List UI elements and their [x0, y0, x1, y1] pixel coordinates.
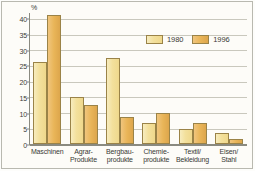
y-tick-label-40: 40	[19, 16, 27, 23]
y-tick-label-20: 20	[19, 79, 27, 86]
legend-swatch-1980	[146, 35, 163, 44]
bar-group	[142, 13, 170, 144]
bar-1980	[179, 129, 193, 144]
bar-1996	[229, 139, 243, 144]
y-tick-mark-10	[27, 113, 30, 114]
y-tick-mark-5	[27, 129, 30, 130]
chart-legend: 1980 1996	[146, 35, 230, 44]
bar-1996	[156, 113, 170, 144]
chart-screenshot: % 0510152025303540 1980 1996 MaschinenAg…	[0, 0, 255, 171]
bar-1980	[33, 62, 47, 144]
y-tick-mark-0	[27, 145, 30, 146]
x-axis-label: Eisen/ Stahl	[207, 148, 251, 164]
bar-1980	[142, 123, 156, 144]
bar-1996	[84, 105, 98, 144]
y-tick-mark-40	[27, 19, 30, 20]
y-tick-mark-20	[27, 82, 30, 83]
y-tick-label-35: 35	[19, 32, 27, 39]
y-tick-mark-15	[27, 97, 30, 98]
y-tick-mark-25	[27, 66, 30, 67]
y-tick-label-30: 30	[19, 47, 27, 54]
plot-area: 0510152025303540	[29, 13, 247, 145]
y-tick-mark-30	[27, 50, 30, 51]
bar-1980	[70, 97, 84, 144]
y-tick-mark-35	[27, 35, 30, 36]
y-tick-label-25: 25	[19, 63, 27, 70]
legend-item-1980: 1980	[146, 35, 183, 44]
y-tick-label-10: 10	[19, 110, 27, 117]
legend-item-1996: 1996	[192, 35, 229, 44]
bar-group	[33, 13, 61, 144]
legend-label-1980: 1980	[167, 35, 183, 44]
bar-1996	[193, 123, 207, 144]
bar-group	[70, 13, 98, 144]
legend-label-1996: 1996	[213, 35, 229, 44]
y-tick-label-5: 5	[23, 126, 27, 133]
bar-1980	[215, 133, 229, 144]
bar-group	[215, 13, 243, 144]
gridline-0	[30, 145, 247, 146]
y-axis-unit-label: %	[31, 4, 37, 11]
chart-frame: % 0510152025303540 1980 1996 MaschinenAg…	[1, 1, 253, 169]
legend-swatch-1996	[192, 35, 209, 44]
bar-1996	[47, 15, 61, 144]
bar-1996	[120, 117, 134, 144]
bar-1980	[106, 58, 120, 144]
bar-group	[179, 13, 207, 144]
y-tick-label-15: 15	[19, 94, 27, 101]
bar-group	[106, 13, 134, 144]
